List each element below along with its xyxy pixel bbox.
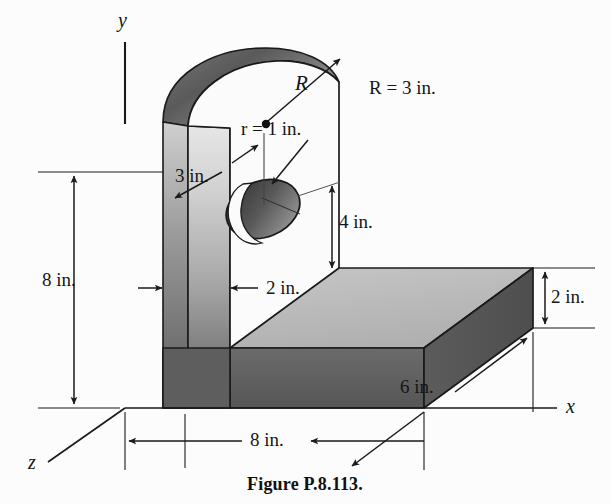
base-thickness-label: 2 in. [551, 287, 585, 306]
hole-radius-label: r = 1 in. [241, 119, 301, 138]
figure-caption: Figure P.8.113. [0, 474, 610, 495]
wall-height-label: 8 in. [42, 270, 76, 289]
base-depth-label: 6 in. [400, 377, 434, 396]
x-axis-label: x [566, 396, 575, 416]
arch-radius-label: R = 3 in. [369, 78, 436, 97]
base-slab-front-face [230, 348, 424, 408]
hole-height-label: 4 in. [339, 212, 373, 231]
wall-thickness-label: 2 in. [266, 278, 300, 297]
radius-symbol-label: R [295, 73, 308, 94]
figure-container: y x z R R = 3 in. r = 1 in. 3 in. 4 in. … [0, 0, 610, 504]
wall-foot-face [163, 348, 230, 408]
z-axis-label: z [28, 452, 36, 472]
base-length-label: 8 in. [250, 430, 284, 449]
z-axis-line [48, 408, 125, 462]
arch-thickness-label: 3 in. [175, 166, 209, 185]
dim-wall-height [38, 172, 163, 408]
y-axis-label: y [118, 10, 127, 30]
